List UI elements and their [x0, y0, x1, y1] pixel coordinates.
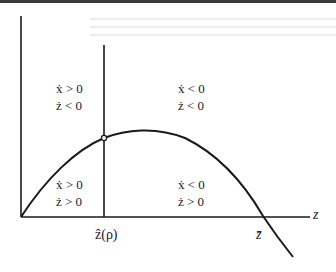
region-top-left-xdot: ẋ > 0	[56, 80, 83, 97]
region-bottom-right: ẋ < 0 ż > 0	[178, 176, 205, 210]
intersection-point	[101, 135, 106, 140]
region-top-right-zdot: ż < 0	[178, 97, 205, 114]
region-top-right: ẋ < 0 ż < 0	[178, 80, 205, 114]
region-top-left: ẋ > 0 ż < 0	[56, 80, 83, 114]
region-bottom-right-xdot: ẋ < 0	[178, 176, 205, 193]
region-bottom-right-zdot: ż > 0	[178, 193, 205, 210]
region-top-right-xdot: ẋ < 0	[178, 80, 205, 97]
z-hat-label: ẑ(ρ)	[95, 226, 118, 244]
region-bottom-left-zdot: ż > 0	[56, 193, 83, 210]
region-bottom-left: ẋ > 0 ż > 0	[56, 176, 83, 210]
z-bar-label: z̄	[256, 226, 261, 244]
region-top-left-zdot: ż < 0	[56, 97, 83, 114]
phase-diagram	[0, 0, 336, 272]
x-axis-label: z	[313, 206, 318, 224]
region-bottom-left-xdot: ẋ > 0	[56, 176, 83, 193]
